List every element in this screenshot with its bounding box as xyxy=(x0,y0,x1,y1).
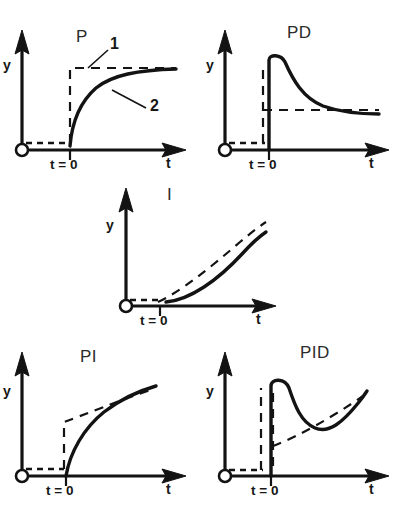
y-axis-label-pi: y xyxy=(3,384,11,398)
panel-p: P y t t = 0 1 2 xyxy=(0,10,200,170)
y-axis-arrow-icon xyxy=(218,352,232,376)
t-axis-label-i: t xyxy=(256,312,261,326)
y-axis-arrow-icon xyxy=(15,30,29,54)
panel-title-i: I xyxy=(167,186,172,203)
panel-pd: PD y t t = 0 xyxy=(203,10,403,170)
t-zero-label-pd: t = 0 xyxy=(249,158,276,172)
panel-pi-plot xyxy=(0,340,200,500)
t-zero-label-pid: t = 0 xyxy=(251,484,278,498)
ideal-step-dashed xyxy=(70,68,176,143)
panel-title-p: P xyxy=(76,28,88,45)
callout-one-leader xyxy=(88,50,108,68)
y-axis-label-p: y xyxy=(3,58,11,72)
y-axis-label-i: y xyxy=(106,218,114,232)
panel-i: I y t t = 0 xyxy=(100,180,310,330)
actual-response-solid xyxy=(271,380,367,476)
panel-p-plot xyxy=(0,10,200,170)
origin-marker xyxy=(16,470,28,482)
pid-step-response-figure: P y t t = 0 1 2 PD y t t = 0 xyxy=(0,0,407,505)
panel-pi: PI y t t = 0 xyxy=(0,340,200,500)
y-axis-arrow-icon xyxy=(119,188,133,212)
y-axis-arrow-icon xyxy=(15,352,29,376)
origin-marker xyxy=(16,144,28,156)
t-zero-label-i: t = 0 xyxy=(140,314,167,328)
y-axis-label-pid: y xyxy=(206,384,214,398)
callout-label-two: 2 xyxy=(150,98,159,114)
t-axis-label-pd: t xyxy=(369,156,374,170)
origin-marker xyxy=(120,300,132,312)
ideal-ramp-dashed xyxy=(273,396,363,446)
y-axis-arrow-icon xyxy=(218,30,232,54)
t-axis-label-pid: t xyxy=(369,482,374,496)
callout-two-leader xyxy=(112,90,146,108)
actual-ramp-solid xyxy=(166,232,266,302)
panel-title-pi: PI xyxy=(80,348,97,365)
actual-response-solid xyxy=(66,386,156,476)
t-axis-label-pi: t xyxy=(166,482,171,496)
ideal-ramp-dashed xyxy=(158,222,266,302)
panel-i-plot xyxy=(100,180,310,330)
panel-pid-plot xyxy=(203,340,403,500)
y-axis-label-pd: y xyxy=(206,58,214,72)
origin-marker xyxy=(219,144,231,156)
origin-marker xyxy=(219,470,231,482)
actual-response-solid xyxy=(70,69,176,146)
t-zero-label-p: t = 0 xyxy=(50,158,77,172)
callout-label-one: 1 xyxy=(110,36,119,52)
t-axis-label-p: t xyxy=(166,156,171,170)
panel-pid: PID y t t = 0 xyxy=(203,340,403,500)
panel-title-pid: PID xyxy=(300,344,330,361)
t-zero-label-pi: t = 0 xyxy=(46,484,73,498)
actual-response-solid xyxy=(269,56,379,150)
panel-title-pd: PD xyxy=(287,24,312,41)
ideal-step-ramp-dashed xyxy=(64,390,150,469)
